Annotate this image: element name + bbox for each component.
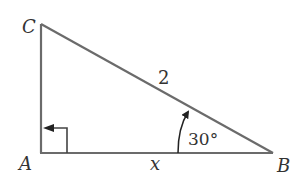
- base-label-x: x: [150, 153, 160, 174]
- triangle-diagram: C A B 2 x 30°: [0, 0, 307, 188]
- hypotenuse-label: 2: [158, 67, 169, 88]
- right-angle-marker: [43, 124, 67, 153]
- vertex-label-b: B: [276, 155, 290, 176]
- angle-arc-30: [178, 112, 188, 153]
- angle-label: 30°: [188, 129, 218, 149]
- vertex-label-c: C: [22, 16, 36, 37]
- arrow-left-icon: [43, 124, 54, 132]
- vertex-label-a: A: [17, 153, 32, 174]
- side-cb-hypotenuse: [41, 24, 273, 153]
